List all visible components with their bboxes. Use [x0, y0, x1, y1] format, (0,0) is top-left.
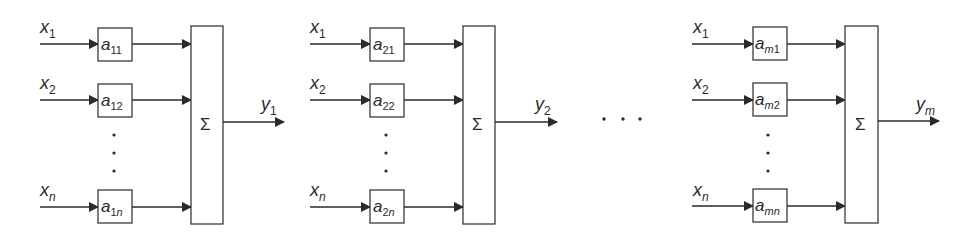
input-row-n: xn a1n [39, 180, 191, 223]
input-row-2: x2 am2 [692, 73, 845, 116]
input-label-x1: x1 [39, 17, 56, 41]
input-label-xn: xn [309, 180, 326, 204]
vertical-ellipsis [384, 133, 387, 172]
diagram-canvas: x1 a11 x2 a12 xn a1n Σ [0, 0, 973, 236]
sigma-symbol: Σ [855, 115, 866, 134]
vertical-ellipsis [112, 133, 115, 172]
output-label-y1: y1 [259, 94, 277, 118]
input-row-2: x2 a22 [309, 73, 463, 117]
input-row-n: xn amn [692, 180, 845, 222]
vertical-ellipsis [766, 133, 769, 172]
input-row-2: x2 a12 [39, 73, 191, 117]
output-label-ym: ym [914, 94, 935, 118]
input-label-x1: x1 [309, 17, 326, 41]
output-label-y2: y2 [533, 94, 551, 118]
input-label-x2: x2 [309, 73, 326, 97]
unit-1: x1 a11 x2 a12 xn a1n Σ [39, 17, 284, 224]
input-label-x2: x2 [692, 73, 709, 97]
input-label-x2: x2 [39, 73, 56, 97]
input-label-xn: xn [692, 180, 709, 204]
sigma-symbol: Σ [200, 115, 211, 134]
input-row-1: x1 a11 [39, 17, 191, 61]
input-row-n: xn a2n [309, 180, 463, 223]
unit-2: x1 a21 x2 a22 xn a2n Σ y2 [309, 17, 557, 224]
sigma-symbol: Σ [472, 115, 483, 134]
input-row-1: x1 am1 [692, 17, 845, 60]
horizontal-ellipsis [602, 117, 641, 120]
input-label-xn: xn [39, 180, 56, 204]
unit-m: x1 am1 x2 am2 xn amn Σ ym [692, 17, 939, 223]
input-row-1: x1 a21 [309, 17, 463, 61]
input-label-x1: x1 [692, 17, 709, 41]
block-diagram: x1 a11 x2 a12 xn a1n Σ [0, 0, 973, 236]
